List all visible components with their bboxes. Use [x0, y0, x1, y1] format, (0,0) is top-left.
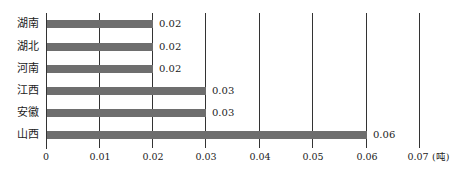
x-tick-label: 0.06 [356, 151, 377, 163]
x-tick-label: 0.05 [302, 151, 323, 163]
bar [47, 131, 367, 139]
x-tick-label: 0.07 [407, 151, 428, 163]
x-tick-label: 0 [43, 151, 49, 163]
gridline [259, 13, 260, 148]
bar [47, 43, 153, 51]
value-label: 0.06 [373, 129, 395, 141]
x-tick-label: 0.01 [89, 151, 110, 163]
x-tick-label: 0.03 [195, 151, 216, 163]
gridline [312, 13, 313, 148]
gridline [419, 13, 420, 148]
gridline [205, 13, 206, 148]
x-tick-label: 0.02 [142, 151, 163, 163]
bar [47, 20, 153, 28]
category-label: 湖北 [5, 41, 39, 53]
value-label: 0.02 [159, 63, 181, 75]
y-axis-line [46, 13, 47, 149]
category-label: 湖南 [5, 18, 39, 30]
bar-chart: 湖南 湖北 河南 江西 安徽 山西 0.02 0.02 0.02 0.03 0.… [0, 0, 469, 175]
bar [47, 65, 153, 73]
category-label: 江西 [5, 85, 39, 97]
category-label: 河南 [5, 63, 39, 75]
x-axis-unit: (吨) [432, 151, 449, 163]
gridline [99, 13, 100, 148]
category-label: 安徽 [5, 107, 39, 119]
gridline [152, 13, 153, 148]
category-label: 山西 [5, 129, 39, 141]
bar [47, 109, 206, 117]
gridline [366, 13, 367, 148]
x-tick-label: 0.04 [249, 151, 270, 163]
value-label: 0.02 [159, 18, 181, 30]
value-label: 0.03 [212, 107, 234, 119]
value-label: 0.03 [212, 85, 234, 97]
bar [47, 87, 206, 95]
value-label: 0.02 [159, 41, 181, 53]
